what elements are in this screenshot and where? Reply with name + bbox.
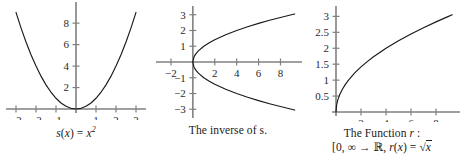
y-tick-label: 4 <box>64 60 70 72</box>
three-panel-math-figure: −3−2−11232468 s(x) = x2 −22468−3−2−1123 … <box>0 0 460 163</box>
y-tick-label: 1 <box>180 40 186 52</box>
y-tick-label: 1 <box>324 74 330 86</box>
x-tick-label: 1 <box>93 114 99 120</box>
x-tick-label: −1 <box>50 114 62 120</box>
caption-sqrt-line1: The Function r : <box>304 126 460 140</box>
x-tick-label: −3 <box>10 114 22 120</box>
x-tick-label: 8 <box>278 67 284 79</box>
x-tick-label: 2 <box>358 117 364 122</box>
sqrt-plot: 24680.511.522.53 <box>304 0 460 122</box>
panel-sqrt: 24680.511.522.53 The Function r : [0, ∞ … <box>304 0 460 163</box>
y-tick-label: 3 <box>324 10 330 22</box>
x-tick-label: 6 <box>256 67 262 79</box>
x-tick-label: 4 <box>383 117 389 122</box>
y-tick-label: 3 <box>180 9 186 21</box>
y-tick-label: 8 <box>64 17 70 29</box>
parabola-plot: −3−2−11232468 <box>0 0 152 120</box>
y-tick-label: 0.5 <box>315 90 329 102</box>
y-tick-label: 2 <box>180 24 186 36</box>
x-tick-label: −2 <box>30 114 42 120</box>
caption-parabola: s(x) = x2 <box>0 123 152 140</box>
y-tick-label: −1 <box>174 72 186 84</box>
y-tick-label: 6 <box>64 38 70 50</box>
y-tick-label: 2.5 <box>315 26 329 38</box>
x-tick-label: 8 <box>433 117 439 122</box>
x-tick-label: 2 <box>113 114 119 120</box>
caption-inverse: The inverse of s. <box>152 123 304 137</box>
y-tick-label: 2 <box>64 81 70 93</box>
y-tick-label: −3 <box>174 103 186 115</box>
x-tick-label: 6 <box>408 117 414 122</box>
inverse-plot: −22468−3−2−1123 <box>152 0 304 120</box>
caption-sqrt-line2: [0, ∞ → ℝ, r(x) = √x <box>304 140 460 154</box>
panel-parabola: −3−2−11232468 s(x) = x2 <box>0 0 152 163</box>
y-tick-label: 1.5 <box>315 58 329 70</box>
curve-sqrt <box>336 15 452 112</box>
caption-inverse-text: The inverse of s. <box>189 124 267 136</box>
curve-upper-branch-y-x <box>193 14 295 62</box>
x-tick-label: 2 <box>212 67 218 79</box>
x-tick-label: 3 <box>133 114 139 120</box>
y-tick-label: −2 <box>174 87 186 99</box>
panel-inverse: −22468−3−2−1123 The inverse of s. <box>152 0 304 163</box>
y-tick-label: 2 <box>324 42 330 54</box>
x-tick-label: 4 <box>234 67 240 79</box>
